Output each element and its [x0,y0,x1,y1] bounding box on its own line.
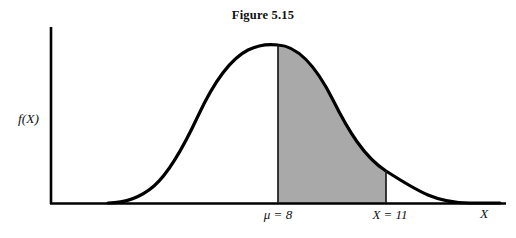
value-tick-label: X = 11 [355,207,425,223]
mean-tick-label: μ = 8 [243,207,313,223]
x-axis-label: X [480,206,488,222]
normal-distribution-plot [0,0,516,238]
shaded-area-region [278,45,386,203]
figure-container: Figure 5.15 f(X) X μ = 8 X = 11 [0,0,516,238]
y-axis-label: f(X) [18,111,39,127]
